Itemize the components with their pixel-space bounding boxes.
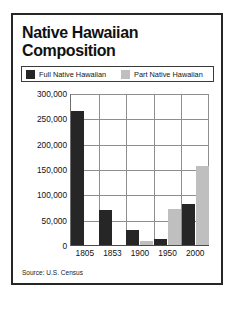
y-axis-tick-label: 300,000 — [37, 89, 67, 99]
source-note: Source: U.S. Census — [22, 269, 83, 276]
bar-part-native-hawaiian — [140, 241, 153, 245]
y-axis-tick-label: 200,000 — [37, 140, 67, 150]
bar-group: 2000 — [181, 94, 209, 245]
bar-part-native-hawaiian — [196, 166, 209, 245]
bar-group: 1900 — [126, 94, 154, 245]
y-axis-tick-label: 50,000 — [42, 216, 67, 226]
x-axis-tick-label: 1853 — [103, 248, 121, 258]
legend-swatch-full-native-hawaiian — [26, 70, 35, 79]
bar-series-container: 18051853190019502000 — [71, 94, 209, 245]
legend-item-part-native-hawaiian: Part Native Hawaiian — [121, 67, 205, 81]
bar-group: 1950 — [154, 94, 182, 245]
chart-figure: Native Hawaiian Composition Full Native … — [11, 13, 223, 285]
y-axis-tick-label: 150,000 — [37, 165, 67, 175]
bar-full-native-hawaiian — [154, 239, 167, 245]
bar-group: 1805 — [71, 94, 99, 245]
bar-part-native-hawaiian — [168, 209, 181, 245]
bar-full-native-hawaiian — [99, 210, 112, 245]
page-title: Native Hawaiian Composition — [22, 24, 209, 59]
y-axis-tick-label: 100,000 — [37, 190, 67, 200]
legend-label-part-native-hawaiian: Part Native Hawaiian — [134, 70, 203, 79]
chart-legend: Full Native Hawaiian Part Native Hawaiia… — [21, 66, 214, 82]
y-axis-tick-label: 0 — [62, 241, 67, 251]
x-axis-tick-label: 2000 — [186, 248, 204, 258]
legend-item-full-native-hawaiian: Full Native Hawaiian — [26, 67, 108, 81]
y-axis-tick-label: 250,000 — [37, 114, 67, 124]
legend-label-full-native-hawaiian: Full Native Hawaiian — [39, 70, 106, 79]
x-axis-tick-label: 1900 — [131, 248, 149, 258]
axes-box: 050,000100,000150,000200,000250,000300,0… — [70, 94, 209, 246]
bar-full-native-hawaiian — [182, 204, 195, 245]
bar-full-native-hawaiian — [71, 111, 84, 245]
x-axis-tick-label: 1805 — [76, 248, 94, 258]
bar-full-native-hawaiian — [126, 230, 139, 245]
plot-area: 050,000100,000150,000200,000250,000300,0… — [13, 88, 221, 266]
legend-swatch-part-native-hawaiian — [121, 70, 130, 79]
x-axis-tick-label: 1950 — [158, 248, 176, 258]
bar-group: 1853 — [99, 94, 127, 245]
